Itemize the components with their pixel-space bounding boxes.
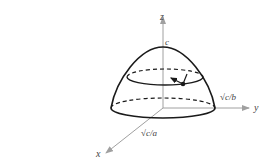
base-ellipse-front: [111, 108, 215, 118]
y-intercept-label: √c/b: [220, 92, 236, 102]
z-axis-label: z: [159, 11, 164, 22]
x-axis-label: x: [95, 148, 101, 159]
y-axis-label: y: [253, 102, 259, 113]
x-intercept-label: √c/a: [141, 128, 157, 138]
level-curve-front: [127, 77, 203, 85]
paraboloid-diagram: z c y √c/b x √c/a: [0, 0, 277, 163]
z-intercept-label: c: [165, 37, 169, 47]
level-curve-back: [127, 69, 203, 77]
surface-point: [181, 82, 186, 87]
